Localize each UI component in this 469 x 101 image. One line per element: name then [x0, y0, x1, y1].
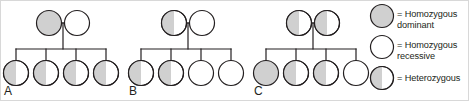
panel-B-parent-1 — [162, 11, 187, 36]
legend-homozygous-recessive-symbol — [371, 36, 394, 59]
panel-C-parent-1 — [287, 11, 312, 36]
panel-A-parent-2-disc — [65, 11, 90, 36]
panel-label-C: C — [254, 85, 263, 97]
panel-A-child-3-left-half-fill — [64, 61, 77, 86]
pedigree-panel-C — [254, 11, 369, 86]
panel-B-child-4 — [219, 61, 244, 86]
panel-C-child-2 — [284, 61, 309, 86]
panel-A-child-2-left-half-fill — [34, 61, 47, 86]
pedigree-panel-B — [129, 11, 244, 86]
panel-B-child-3 — [189, 61, 214, 86]
panel-B-child-2-left-half-fill — [159, 61, 172, 86]
panel-C-parent-1-left-half-fill — [287, 11, 300, 36]
panel-A-child-4-left-half-fill — [93, 61, 106, 86]
panel-C-child-1-disc — [254, 61, 279, 86]
legend-homozygous-dominant-symbol-disc — [371, 5, 394, 28]
legend-homozygous-recessive-label: = Homozygous recessive — [397, 40, 457, 61]
panel-C-child-3 — [314, 61, 339, 86]
legend-heterozygous-symbol — [371, 67, 394, 90]
pedigree-panel-A — [3, 11, 118, 86]
panel-C-child-4-disc — [344, 61, 369, 86]
panel-B-parent-1-left-half-fill — [162, 11, 175, 36]
panel-B-child-2 — [159, 61, 184, 86]
panel-B-parent-2 — [190, 11, 215, 36]
panel-C-parent-2-left-half-fill — [315, 11, 328, 36]
panel-C-parent-2 — [315, 11, 340, 36]
legend-homozygous-dominant-symbol — [371, 5, 394, 28]
panel-A-child-4 — [93, 61, 118, 86]
panel-B-child-1 — [129, 61, 154, 86]
panel-B-parent-2-disc — [190, 11, 215, 36]
panel-A-parent-2 — [65, 11, 90, 36]
panel-A-parent-1 — [37, 11, 62, 36]
panel-A-child-2 — [34, 61, 59, 86]
panel-label-A: A — [4, 85, 12, 97]
legend-homozygous-dominant-label: = Homozygous dominant — [397, 9, 457, 30]
panel-C-child-4 — [344, 61, 369, 86]
panel-label-B: B — [129, 85, 137, 97]
pedigree-figure: ABC= Homozygous dominant= Homozygous rec… — [0, 0, 469, 101]
panel-C-child-3-left-half-fill — [314, 61, 327, 86]
panel-A-child-1 — [3, 61, 28, 86]
legend-homozygous-recessive-symbol-disc — [371, 36, 394, 59]
panel-A-parent-1-disc — [37, 11, 62, 36]
panel-A-child-1-left-half-fill — [3, 61, 16, 86]
panel-B-child-3-disc — [189, 61, 214, 86]
panel-A-child-3 — [64, 61, 89, 86]
panel-C-child-1 — [254, 61, 279, 86]
panel-B-child-4-disc — [219, 61, 244, 86]
legend-heterozygous-label: = Heterozygous — [397, 73, 460, 84]
legend-heterozygous-symbol-left-half-fill — [371, 67, 383, 90]
panel-B-child-1-left-half-fill — [129, 61, 142, 86]
panel-C-child-2-left-half-fill — [284, 61, 297, 86]
